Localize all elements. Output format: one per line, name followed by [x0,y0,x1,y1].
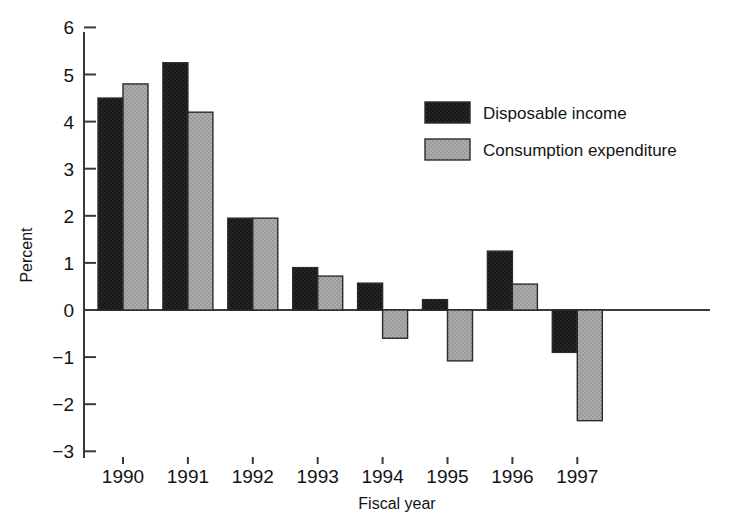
legend-label-disposable-income: Disposable income [483,104,627,123]
y-tick-label: 5 [63,65,74,86]
x-tick-label-1997: 1997 [556,466,598,487]
bar-1997-consumption-expenditure [577,310,602,421]
y-tick-label: −1 [52,347,74,368]
x-axis-title: Fiscal year [358,495,436,512]
legend-swatch-consumption-expenditure [425,139,470,160]
y-tick-label: −2 [52,394,74,415]
bar-1991-consumption-expenditure [188,112,213,310]
y-tick-label: 6 [63,17,74,38]
x-tick-label-1996: 1996 [491,466,533,487]
bar-1993-disposable-income [293,268,318,310]
y-tick-label: −3 [52,441,74,462]
bar-1992-consumption-expenditure [253,218,278,310]
x-tick-label-1994: 1994 [361,466,404,487]
x-tick-label-1990: 1990 [102,466,144,487]
y-tick-label: 3 [63,159,74,180]
x-tick-label-1993: 1993 [297,466,339,487]
x-tick-label-1991: 1991 [167,466,209,487]
bar-1997-disposable-income [552,310,577,352]
x-tick-label-1992: 1992 [232,466,274,487]
bar-1994-consumption-expenditure [383,310,408,338]
bar-1996-disposable-income [487,251,512,310]
legend-label-consumption-expenditure: Consumption expenditure [483,141,677,160]
y-tick-label: 4 [63,112,74,133]
bar-1996-consumption-expenditure [512,284,537,310]
bar-1990-consumption-expenditure [123,84,148,310]
bar-1991-disposable-income [163,63,188,310]
bar-1995-consumption-expenditure [448,310,473,361]
y-tick-label: 1 [63,253,74,274]
bar-1995-disposable-income [423,300,448,310]
bar-1994-disposable-income [358,283,383,310]
bar-1990-disposable-income [98,98,123,310]
y-tick-label: 2 [63,206,74,227]
bar-1993-consumption-expenditure [318,276,343,310]
chart-canvas: 6543210−1−2−3 Percent 199019911992199319… [0,0,734,526]
y-tick-label: 0 [63,300,74,321]
legend-swatch-disposable-income [425,102,470,123]
bar-chart-figure: 6543210−1−2−3 Percent 199019911992199319… [0,0,734,526]
y-axis-title: Percent [18,227,35,283]
bar-1992-disposable-income [228,218,253,310]
x-tick-label-1995: 1995 [426,466,468,487]
